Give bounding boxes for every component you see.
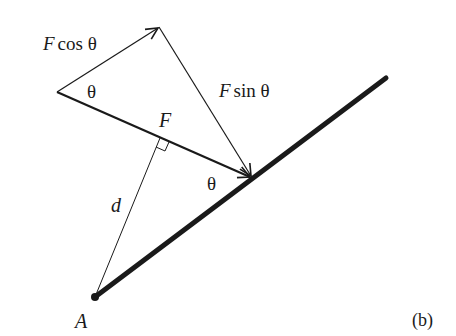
force-diagram: Fcos θ Fsin θ θ θ F d A (b): [0, 0, 456, 336]
force-vector: [57, 92, 250, 177]
force-label: F: [158, 109, 172, 131]
pivot-label: A: [73, 310, 88, 332]
distance-label: d: [111, 194, 122, 216]
theta-right-label: θ: [207, 173, 216, 194]
f-sin-theta-vector: [159, 27, 251, 176]
theta-left-label: θ: [87, 81, 96, 102]
f-cos-theta-label: Fcos θ: [42, 33, 97, 54]
f-sin-theta-label: Fsin θ: [218, 80, 270, 101]
panel-label: (b): [412, 310, 433, 331]
lever-bar: [95, 78, 386, 297]
